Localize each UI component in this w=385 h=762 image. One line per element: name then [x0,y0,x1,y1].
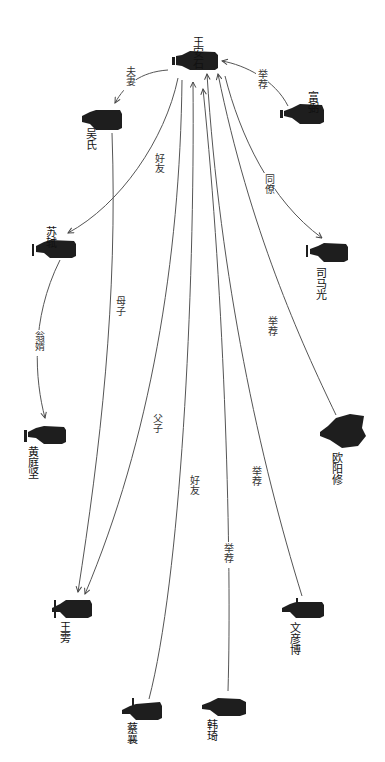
edge-label-jujian-han: 举荐 [222,542,234,568]
svg-text:好友: 好友 [189,475,200,496]
svg-text:富弼: 富弼 [306,90,320,114]
edge-label-haoyou-su: 好友 [153,152,165,178]
node-han-qi[interactable]: 韩琦 [202,698,246,741]
node-wen-yanbo[interactable]: 文彦博 [282,598,324,656]
edge-label-jujian-fu: 举荐 [256,68,268,94]
edge-label-tongliao: 同僚 [263,173,275,199]
svg-text:母子: 母子 [115,296,126,316]
edge-label-fuzi: 父子 [151,412,163,438]
svg-text:举荐: 举荐 [257,68,268,90]
figure-silhouette-icon [52,600,92,618]
svg-text:文彦博: 文彦博 [288,621,302,656]
svg-text:黄庭坚: 黄庭坚 [26,445,40,479]
svg-text:司马光: 司马光 [314,267,328,301]
svg-text:王雱: 王雱 [58,621,72,643]
node-huang-tingjian[interactable]: 黄庭坚 [24,426,66,479]
svg-text:举荐: 举荐 [223,542,234,564]
edge-label-jujian-wen: 举荐 [250,465,262,491]
node-fu-bi[interactable]: 富弼 [280,90,324,124]
node-wang-anshi[interactable]: 王安石 [172,36,218,70]
svg-text:同僚: 同僚 [264,174,275,194]
svg-text:好友: 好友 [154,153,165,174]
svg-text:王安石: 王安石 [191,36,205,69]
svg-text:欧阳修: 欧阳修 [330,452,344,486]
svg-text:蔡襄: 蔡襄 [125,722,139,745]
svg-text:举荐: 举荐 [251,465,262,487]
node-ouyang-xiu[interactable]: 欧阳修 [320,414,366,486]
svg-text:夫妻: 夫妻 [125,66,136,87]
svg-text:苏轼: 苏轼 [44,226,58,249]
edge-label-muzi: 母子 [114,295,126,321]
node-wu-shi[interactable]: 吴氏 [82,110,122,150]
figure-silhouette-icon [320,414,366,448]
node-wang-pang[interactable]: 王雱 [52,600,92,643]
svg-text:吴氏: 吴氏 [84,128,98,150]
figure-silhouette-icon [282,598,324,618]
edge-label-haoyou-cai: 好友 [188,474,200,500]
svg-text:翁婿: 翁婿 [34,330,45,352]
figure-silhouette-icon [122,698,162,720]
figure-silhouette-icon [306,243,348,262]
svg-text:韩琦: 韩琦 [205,718,219,741]
node-cai-xiang[interactable]: 蔡襄 [122,698,162,745]
svg-text:举荐: 举荐 [267,315,278,337]
svg-text:父子: 父子 [152,413,163,433]
figure-silhouette-icon [24,426,66,444]
edge-wang-wu [115,70,168,103]
edge-label-fuqi: 夫妻 [124,65,136,91]
relationship-diagram: 夫妻 举荐 好友 同僚 翁婿 母子 父子 举荐 举荐 好友 举荐 王安石 富弼 … [0,0,385,762]
figure-silhouette-icon [202,698,246,716]
edge-label-wengxu: 翁婿 [33,330,45,356]
edge-wu-wangpang [78,133,113,592]
edge-wang-wangpang [85,80,182,594]
node-sima-guang[interactable]: 司马光 [306,243,348,301]
edge-label-jujian-ouyang: 举荐 [266,315,278,341]
node-su-shi[interactable]: 苏轼 [32,226,76,258]
edge-ouyang-wang [218,74,336,415]
figure-silhouette-icon [82,110,122,130]
